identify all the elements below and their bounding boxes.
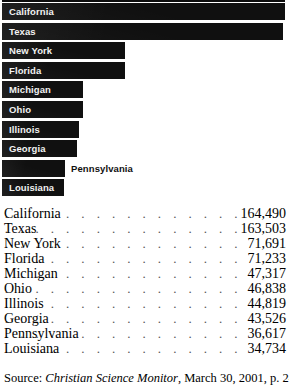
table-row-value: 47,317 bbox=[248, 266, 287, 281]
bar-row: Texas bbox=[2, 23, 285, 40]
bar-row: Louisiana bbox=[2, 179, 285, 196]
table-row: . . . . . . . . . . . . . . . . . . . . … bbox=[0, 326, 289, 341]
bar-label: Florida bbox=[9, 62, 41, 79]
bar-row: Michigan bbox=[2, 81, 285, 98]
source-publication: Christian Science Monitor bbox=[45, 371, 178, 385]
table-row-name: Georgia bbox=[4, 311, 49, 326]
bar-row: California bbox=[2, 3, 285, 20]
table-row-name: Pennsylvania bbox=[4, 326, 79, 341]
table-row-name: Texas bbox=[4, 221, 36, 236]
table-row-value: 163,503 bbox=[241, 221, 287, 236]
bar-row: Florida bbox=[2, 62, 285, 79]
table-row: . . . . . . . . . . . . . . . . . . . . … bbox=[0, 236, 289, 251]
table-row-value: 71,691 bbox=[248, 236, 287, 251]
table-row: . . . . . . . . . . . . . . . . . . . . … bbox=[0, 296, 289, 311]
table-row-value: 71,233 bbox=[248, 251, 287, 266]
leader-dots: . . . . . . . . . . . . . . . . . . . . … bbox=[4, 221, 242, 236]
table-row-value: 43,526 bbox=[248, 311, 287, 326]
data-table: . . . . . . . . . . . . . . . . . . . . … bbox=[0, 206, 289, 356]
bar-label: Michigan bbox=[9, 81, 51, 98]
table-row-name: New York bbox=[4, 236, 61, 251]
bar-row: New York bbox=[2, 42, 285, 59]
table-row-name: Ohio bbox=[4, 281, 32, 296]
table-row: . . . . . . . . . . . . . . . . . . . . … bbox=[0, 251, 289, 266]
source-suffix: , March 30, 2001, p. 24, bbox=[178, 371, 289, 385]
bar-row: Pennsylvania bbox=[2, 160, 285, 177]
table-row-name: Michigan bbox=[4, 266, 58, 281]
bar-row: Ohio bbox=[2, 101, 285, 118]
bar-row: Georgia bbox=[2, 140, 285, 157]
table-row: . . . . . . . . . . . . . . . . . . . . … bbox=[0, 206, 289, 221]
leader-dots: . . . . . . . . . . . . . . . . . . . . … bbox=[4, 281, 242, 296]
bar-label: Georgia bbox=[9, 140, 46, 157]
table-row: . . . . . . . . . . . . . . . . . . . . … bbox=[0, 281, 289, 296]
source-prefix: Source: bbox=[4, 371, 45, 385]
cropped-bar-strip bbox=[2, 0, 285, 2]
bar-label: California bbox=[9, 3, 54, 20]
bar-label: Pennsylvania bbox=[71, 160, 133, 177]
table-row-value: 34,734 bbox=[248, 341, 287, 356]
bar-texas bbox=[2, 23, 283, 40]
table-row-name: Illinois bbox=[4, 296, 44, 311]
table-row: . . . . . . . . . . . . . . . . . . . . … bbox=[0, 266, 289, 281]
table-row-value: 36,617 bbox=[248, 326, 287, 341]
bar-label: Ohio bbox=[9, 101, 31, 118]
bar-label: Illinois bbox=[9, 121, 40, 138]
table-row: . . . . . . . . . . . . . . . . . . . . … bbox=[0, 221, 289, 236]
bar-label: New York bbox=[9, 42, 52, 59]
table-row: . . . . . . . . . . . . . . . . . . . . … bbox=[0, 341, 289, 356]
table-row-name: Louisiana bbox=[4, 341, 59, 356]
bar-pennsylvania bbox=[2, 160, 65, 177]
table-row-name: California bbox=[4, 206, 61, 221]
table-row-value: 164,490 bbox=[241, 206, 287, 221]
horizontal-bar-chart: CaliforniaTexasNew YorkFloridaMichiganOh… bbox=[0, 3, 289, 203]
table-row-value: 44,819 bbox=[248, 296, 287, 311]
bar-label: Louisiana bbox=[9, 179, 54, 196]
table-row-name: Florida bbox=[4, 251, 44, 266]
bar-label: Texas bbox=[9, 23, 36, 40]
table-row-value: 46,838 bbox=[248, 281, 287, 296]
source-note: Source: Christian Science Monitor, March… bbox=[4, 371, 289, 386]
bar-row: Illinois bbox=[2, 121, 285, 138]
table-row: . . . . . . . . . . . . . . . . . . . . … bbox=[0, 311, 289, 326]
